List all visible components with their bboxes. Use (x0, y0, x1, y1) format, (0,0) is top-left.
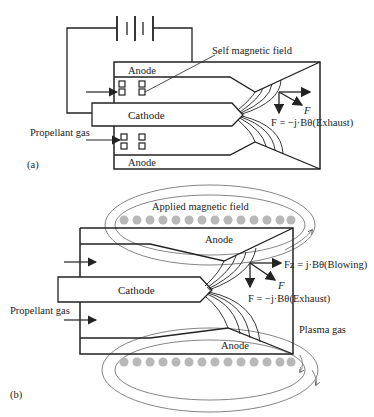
cathode-shape (92, 103, 243, 126)
coil-top (120, 216, 296, 225)
exhaust-equation-b: F = −j·Bθ(Exhaust) (248, 293, 331, 305)
exhaust-equation: F = −j·Bθ(Exhaust) (271, 117, 354, 129)
force-label: F (303, 105, 311, 116)
anode-top-label-b: Anode (205, 234, 233, 245)
propellant-label: Propellant gas (30, 127, 90, 138)
anode-top-label: Anode (128, 65, 156, 76)
panel-b-label: (b) (10, 389, 23, 401)
coil-bottom (120, 358, 296, 367)
force-label-b: F (277, 280, 285, 291)
panel-a-label: (a) (27, 159, 39, 171)
anode-bottom-label-b: Anode (221, 340, 249, 351)
anode-bottom-label: Anode (128, 157, 156, 168)
blowing-equation: Fz = j·Bθ(Blowing) (284, 259, 368, 271)
panel-a: Self magnetic field Anode Anode Cathode … (27, 16, 354, 171)
self-field-label: Self magnetic field (212, 45, 293, 56)
cathode-label: Cathode (128, 109, 165, 121)
plasma-gas-label: Plasma gas (299, 324, 346, 335)
mpd-thruster-diagram: Self magnetic field Anode Anode Cathode … (0, 0, 374, 417)
cathode-label-b: Cathode (118, 284, 155, 296)
applied-field-label: Applied magnetic field (152, 201, 250, 212)
panel-b: Applied magnetic field Anode Anode Catho… (10, 185, 368, 412)
propellant-label-b: Propellant gas (10, 305, 70, 316)
